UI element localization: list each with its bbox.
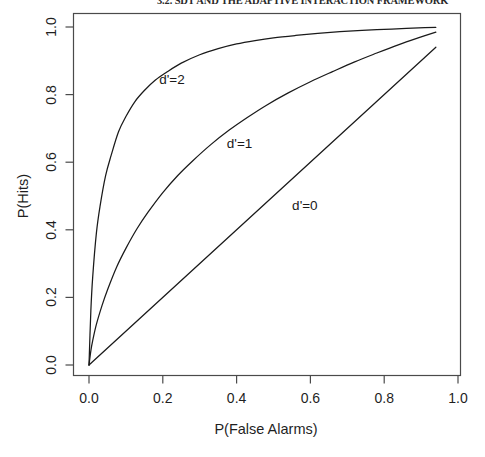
y-axis-title: P(Hits) xyxy=(15,174,31,218)
x-tick-label-1: 0.2 xyxy=(153,390,172,406)
curve-label-2: d'=0 xyxy=(292,198,317,213)
y-tick-label-1: 0.2 xyxy=(43,288,59,307)
y-tick-label-2: 0.4 xyxy=(43,220,59,239)
x-tick-label-2: 0.4 xyxy=(227,390,246,406)
curve-label-0: d'=2 xyxy=(159,72,184,87)
y-tick-label-5: 1.0 xyxy=(43,17,59,36)
x-tick-label-3: 0.6 xyxy=(301,390,320,406)
y-axis-ticks xyxy=(66,27,74,365)
x-tick-label-5: 1.0 xyxy=(448,390,467,406)
roc-chart-figure: 0.00.20.40.60.81.0 0.00.20.40.60.81.0 P(… xyxy=(0,0,485,457)
y-tick-label-3: 0.6 xyxy=(43,152,59,171)
curve-label-1: d'=1 xyxy=(227,135,252,150)
roc-curve-d2 xyxy=(89,27,436,365)
roc-curve-d1 xyxy=(89,32,436,365)
x-axis-title: P(False Alarms) xyxy=(214,421,317,437)
y-tick-label-0: 0.0 xyxy=(43,355,59,374)
x-tick-label-4: 0.8 xyxy=(374,390,393,406)
x-tick-label-0: 0.0 xyxy=(79,390,98,406)
roc-curves-group xyxy=(89,27,436,365)
roc-plot-canvas xyxy=(0,0,485,457)
y-tick-label-4: 0.8 xyxy=(43,85,59,104)
plot-frame-box xyxy=(74,14,461,376)
x-axis-ticks xyxy=(89,376,458,384)
